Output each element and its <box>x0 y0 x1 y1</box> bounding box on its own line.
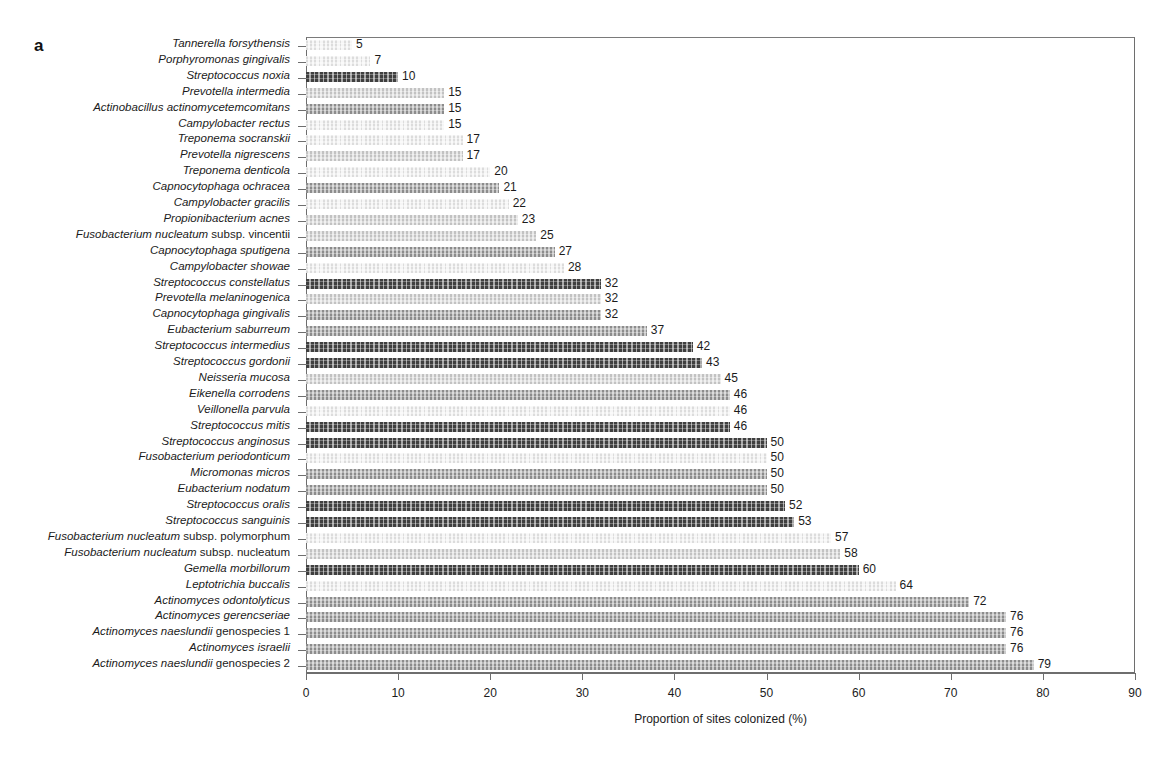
bar-row-label: Streptococcus constellatus <box>0 276 290 289</box>
x-axis-tick-label: 40 <box>654 686 694 700</box>
bar-value-label: 50 <box>771 435 784 450</box>
bar-row-label: Streptococcus sanguinis <box>0 514 290 527</box>
bar-row: Tannerella forsythensis5 <box>0 37 1172 54</box>
bar-row-label: Prevotella nigrescens <box>0 148 290 161</box>
species-name: Fusobacterium nucleatum <box>76 228 208 240</box>
bar-value-label: 27 <box>559 244 572 259</box>
species-qualifier: genospecies 1 <box>213 625 290 637</box>
bar <box>306 151 463 161</box>
bar <box>306 104 444 114</box>
x-axis-tick <box>490 673 491 680</box>
bar-row: Leptotrichia buccalis64 <box>0 578 1172 595</box>
bar-row-label: Actinomyces naeslundii genospecies 1 <box>0 625 290 638</box>
species-qualifier: genospecies 2 <box>213 657 290 669</box>
bar-row: Streptococcus intermedius42 <box>0 339 1172 356</box>
bar-value-label: 28 <box>568 260 581 275</box>
bar-row-label: Streptococcus noxia <box>0 69 290 82</box>
bar-row-label: Actinomyces israelii <box>0 641 290 654</box>
bar <box>306 533 831 543</box>
bar-row: Eikenella corrodens46 <box>0 387 1172 404</box>
bar-value-label: 43 <box>706 355 719 370</box>
species-name: Actinomyces naeslundii <box>92 625 212 637</box>
bar-row: Fusobacterium nucleatum subsp. vincentii… <box>0 228 1172 245</box>
bar-value-label: 50 <box>771 466 784 481</box>
bar-row-label: Leptotrichia buccalis <box>0 578 290 591</box>
bar <box>306 294 601 304</box>
bar-row-label: Capnocytophaga gingivalis <box>0 307 290 320</box>
species-name: Actinomyces naeslundii <box>92 657 212 669</box>
bar-row: Porphyromonas gingivalis7 <box>0 53 1172 70</box>
bar-value-label: 32 <box>605 276 618 291</box>
bar <box>306 390 730 400</box>
bar <box>306 88 444 98</box>
species-qualifier: subsp. polymorphum <box>180 530 290 542</box>
bar-row-label: Eikenella corrodens <box>0 387 290 400</box>
x-axis-tick <box>859 673 860 680</box>
bar-value-label: 22 <box>513 196 526 211</box>
x-axis-tick <box>951 673 952 680</box>
bar-row: Campylobacter rectus15 <box>0 117 1172 134</box>
bar <box>306 644 1006 654</box>
bar-row: Veillonella parvula46 <box>0 403 1172 420</box>
bar-row: Actinomyces naeslundii genospecies 279 <box>0 657 1172 674</box>
bar-row: Streptococcus sanguinis53 <box>0 514 1172 531</box>
bar <box>306 469 767 479</box>
bar-row: Fusobacterium nucleatum subsp. nucleatum… <box>0 546 1172 563</box>
bar <box>306 660 1034 670</box>
bar-row-label: Fusobacterium nucleatum subsp. polymorph… <box>0 530 290 543</box>
x-axis-tick-label: 10 <box>378 686 418 700</box>
bar-row-label: Fusobacterium nucleatum subsp. nucleatum <box>0 546 290 559</box>
bar-row-label: Eubacterium nodatum <box>0 482 290 495</box>
bar <box>306 326 647 336</box>
bar <box>306 120 444 130</box>
bar <box>306 374 721 384</box>
bar-value-label: 10 <box>402 69 415 84</box>
bar-value-label: 76 <box>1010 641 1023 656</box>
bar-value-label: 45 <box>725 371 738 386</box>
bar-row-label: Eubacterium saburreum <box>0 323 290 336</box>
bar-value-label: 21 <box>503 180 516 195</box>
bar-row: Treponema socranskii17 <box>0 132 1172 149</box>
bar-row: Prevotella nigrescens17 <box>0 148 1172 165</box>
x-axis-tick-label: 0 <box>286 686 326 700</box>
bar <box>306 247 555 257</box>
bar-row-label: Capnocytophaga sputigena <box>0 244 290 257</box>
bar-value-label: 72 <box>973 594 986 609</box>
x-axis-tick <box>767 673 768 680</box>
bar-row-label: Campylobacter rectus <box>0 117 290 130</box>
x-axis-tick-label: 30 <box>562 686 602 700</box>
bar <box>306 406 730 416</box>
bar-row: Actinomyces israelii76 <box>0 641 1172 658</box>
bar-row: Streptococcus anginosus50 <box>0 435 1172 452</box>
bar-row: Capnocytophaga gingivalis32 <box>0 307 1172 324</box>
bar-row-label: Gemella morbillorum <box>0 562 290 575</box>
bar <box>306 56 370 66</box>
bar <box>306 231 536 241</box>
bar-row: Prevotella melaninogenica32 <box>0 291 1172 308</box>
bar <box>306 501 785 511</box>
bar-row-label: Veillonella parvula <box>0 403 290 416</box>
x-axis-tick-label: 50 <box>747 686 787 700</box>
bar-value-label: 20 <box>494 164 507 179</box>
species-name: Fusobacterium nucleatum <box>64 546 196 558</box>
x-axis-tick-label: 20 <box>470 686 510 700</box>
bar-value-label: 57 <box>835 530 848 545</box>
bar <box>306 565 859 575</box>
bar-row: Streptococcus gordonii43 <box>0 355 1172 372</box>
bar-row: Streptococcus noxia10 <box>0 69 1172 86</box>
bar <box>306 438 767 448</box>
bar-row: Actinobacillus actinomycetemcomitans15 <box>0 101 1172 118</box>
bar <box>306 215 518 225</box>
bar-value-label: 15 <box>448 85 461 100</box>
bar <box>306 517 794 527</box>
bar-rows-container: Tannerella forsythensis5Porphyromonas gi… <box>0 37 1172 673</box>
bar-value-label: 64 <box>900 578 913 593</box>
bar-row: Neisseria mucosa45 <box>0 371 1172 388</box>
bar-row: Treponema denticola20 <box>0 164 1172 181</box>
bar <box>306 597 969 607</box>
bar-row: Actinomyces gerencseriae76 <box>0 609 1172 626</box>
bar <box>306 263 564 273</box>
bar-row-label: Streptococcus mitis <box>0 419 290 432</box>
bar-value-label: 53 <box>798 514 811 529</box>
bar-row-label: Fusobacterium nucleatum subsp. vincentii <box>0 228 290 241</box>
